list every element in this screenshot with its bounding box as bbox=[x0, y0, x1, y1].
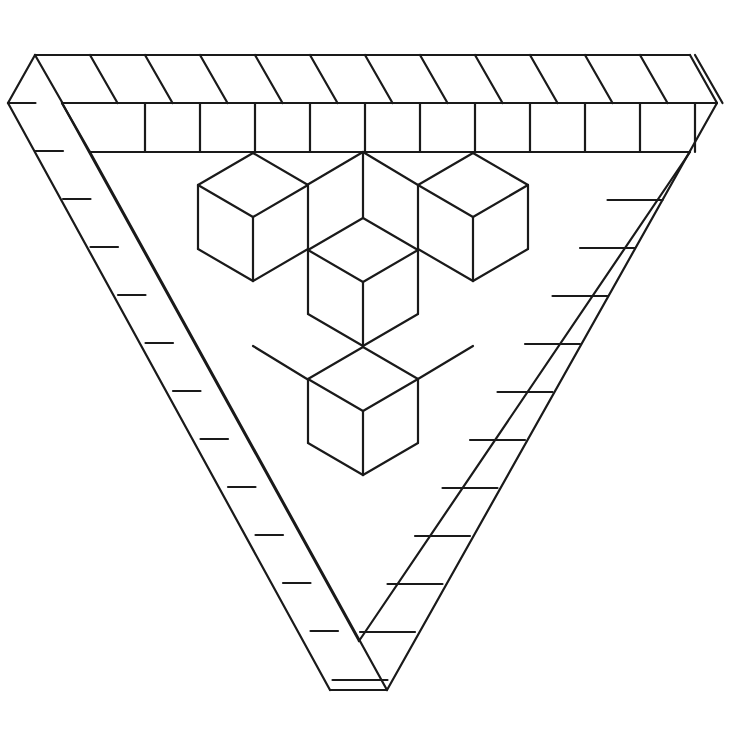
cube-cluster bbox=[198, 152, 528, 475]
impossible-triangle-drawing bbox=[0, 0, 739, 738]
triangle-band bbox=[8, 55, 723, 690]
